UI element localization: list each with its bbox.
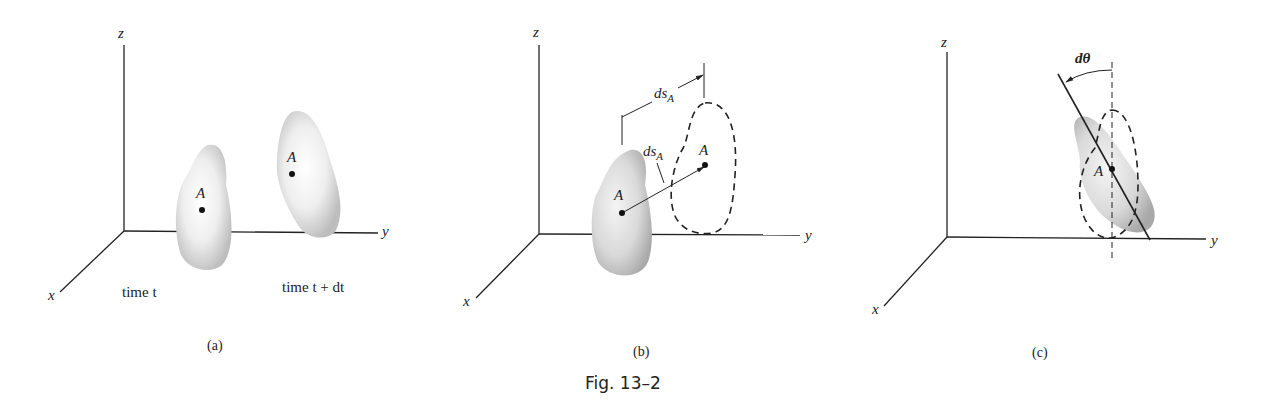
point-a-time-t bbox=[199, 207, 205, 213]
y-axis-label: y bbox=[803, 227, 812, 243]
point-a-label: A bbox=[1093, 163, 1104, 179]
vector-label-leader bbox=[657, 163, 664, 183]
body-time-t bbox=[176, 145, 232, 270]
time-t-label: time t bbox=[122, 284, 157, 300]
time-t-dt-label: time t + dt bbox=[282, 279, 345, 295]
body-displaced-outline bbox=[671, 103, 735, 234]
rotation-arc bbox=[1066, 70, 1112, 82]
axes-c bbox=[884, 52, 1206, 306]
vector-label: dsA bbox=[643, 143, 663, 162]
point-a-label-2: A bbox=[286, 149, 297, 165]
point-a-label-2: A bbox=[698, 142, 709, 158]
point-a-initial bbox=[619, 210, 625, 216]
z-axis-label: z bbox=[117, 25, 124, 41]
point-a-time-t-dt bbox=[289, 171, 295, 177]
dimension-ds-a bbox=[622, 63, 704, 145]
angle-label: dθ bbox=[1075, 50, 1091, 66]
x-axis-label: x bbox=[47, 287, 55, 303]
y-axis-label: y bbox=[380, 223, 389, 239]
panel-b: z y x dsA A A dsA (b) Fig. 13–2 bbox=[462, 24, 812, 393]
z-axis-label: z bbox=[940, 34, 947, 50]
point-a bbox=[1109, 166, 1115, 172]
point-a-label-1: A bbox=[195, 185, 206, 201]
dimension-label: dsA bbox=[654, 85, 674, 104]
x-axis-label: x bbox=[871, 301, 879, 317]
x-axis-label: x bbox=[462, 293, 470, 309]
panel-a: z y x A A time t time t + dt (a) bbox=[47, 25, 389, 354]
point-a-displaced bbox=[702, 162, 708, 168]
point-a-label-1: A bbox=[613, 187, 624, 203]
z-axis-label: z bbox=[532, 24, 539, 40]
body-time-t-dt bbox=[277, 111, 341, 238]
y-axis-label: y bbox=[1209, 232, 1218, 248]
panel-c-caption: (c) bbox=[1032, 345, 1048, 361]
panel-b-caption: (b) bbox=[633, 344, 650, 360]
figure-caption: Fig. 13–2 bbox=[585, 373, 661, 393]
panel-c: z y x dθ A (c) bbox=[871, 34, 1218, 361]
panel-a-caption: (a) bbox=[207, 338, 223, 354]
figure-canvas: z y x A A time t time t + dt (a) z y x bbox=[0, 0, 1263, 407]
